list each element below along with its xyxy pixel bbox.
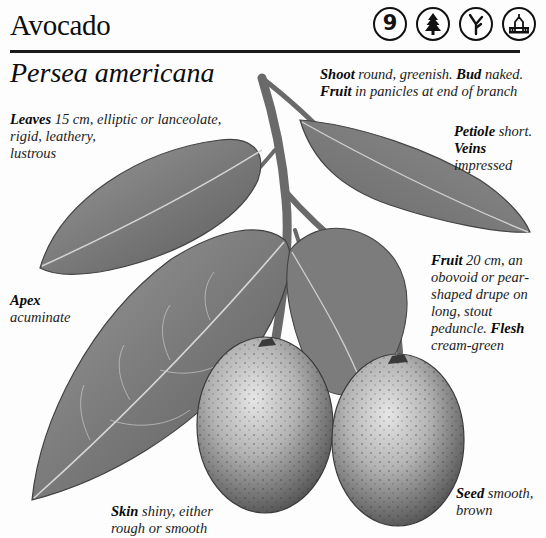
term-leaves: Leaves	[10, 111, 51, 127]
annotation-leaves: Leaves 15 cm, elliptic or lanceolate, ri…	[10, 111, 221, 162]
term-shoot: Shoot	[320, 66, 355, 82]
branch-fork-icon	[459, 7, 493, 41]
term-apex: Apex	[10, 292, 41, 308]
hardiness-zone-label: 9	[383, 13, 398, 34]
term-petiole: Petiole	[454, 123, 495, 139]
header-divider	[10, 50, 520, 53]
annotation-fruit: Fruit 20 cm, an obovoid or pear- shaped …	[431, 252, 529, 354]
conifer-tree-icon	[416, 7, 450, 41]
field-guide-page: Avocado Persea americana 9 Shoot round, …	[0, 0, 546, 538]
garden-house-icon	[502, 7, 536, 41]
common-name-title: Avocado	[10, 8, 110, 42]
annotation-petiole-veins: Petiole short. Veins impressed	[454, 123, 532, 174]
fruit-right	[332, 354, 464, 526]
term-bud: Bud	[456, 66, 481, 82]
annotation-skin: Skin shiny, either rough or smooth	[111, 503, 213, 537]
badge-row: 9	[373, 7, 536, 41]
term-skin: Skin	[111, 503, 138, 519]
term-seed: Seed	[456, 485, 484, 501]
annotation-apex: Apex acuminate	[10, 292, 70, 326]
zone-number-icon: 9	[373, 7, 407, 41]
fruit-left	[197, 337, 333, 513]
annotation-seed: Seed smooth, brown	[456, 485, 533, 519]
term-flesh: Flesh	[491, 320, 525, 336]
annotation-shoot-bud-fruit: Shoot round, greenish. Bud naked. Fruit …	[320, 66, 523, 100]
term-veins: Veins	[454, 140, 486, 156]
term-fruit: Fruit	[431, 252, 462, 268]
term-fruit-panicle: Fruit	[320, 83, 351, 99]
scientific-name: Persea americana	[10, 56, 215, 90]
